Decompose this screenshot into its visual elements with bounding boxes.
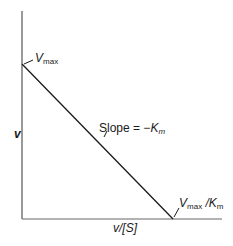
vmax-km-k: K — [209, 196, 217, 210]
vmax-km-label: Vmax /Km — [179, 197, 224, 209]
vmax-label: Vmax — [35, 52, 58, 64]
y-axis-label: v — [14, 128, 21, 140]
vmax-km-sep: / — [202, 196, 209, 210]
vmax-km-ksub: m — [217, 202, 224, 211]
vmax-sub: max — [43, 57, 58, 66]
slope-sub: m — [158, 127, 165, 136]
vmax-km-sub: max — [187, 202, 202, 211]
vmax-main: V — [35, 51, 43, 65]
vmax-pointer — [24, 60, 33, 64]
x-axis-label: v/[S] — [113, 222, 137, 234]
slope-prefix: Slope = − — [99, 121, 150, 135]
data-line — [22, 64, 173, 219]
vmax-km-main: V — [179, 196, 187, 210]
slope-label: Slope = −Km — [99, 122, 165, 134]
